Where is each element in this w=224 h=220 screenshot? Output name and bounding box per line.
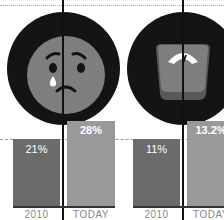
left-connector-line <box>62 0 64 220</box>
right-connector-line <box>182 0 184 220</box>
bar-left-today: 28% <box>67 121 115 207</box>
label-right-today: TODAY <box>187 209 224 220</box>
bar-value: 11% <box>133 139 180 155</box>
bar-left-2010: 21% <box>13 139 60 207</box>
label-left-2010: 2010 <box>13 209 60 220</box>
bar-value: 13.2% <box>187 121 224 136</box>
label-right-2010: 2010 <box>133 209 180 220</box>
bar-right-today: 13.2% <box>187 121 224 207</box>
bar-right-2010: 11% <box>133 139 180 207</box>
top-dashed-line <box>0 5 224 6</box>
bar-value: 28% <box>67 121 115 136</box>
bar-value: 21% <box>13 139 60 155</box>
label-left-today: TODAY <box>67 209 115 220</box>
sad-crying-face-icon <box>27 36 105 114</box>
baseline-right <box>133 206 224 208</box>
baseline-left <box>13 206 115 208</box>
